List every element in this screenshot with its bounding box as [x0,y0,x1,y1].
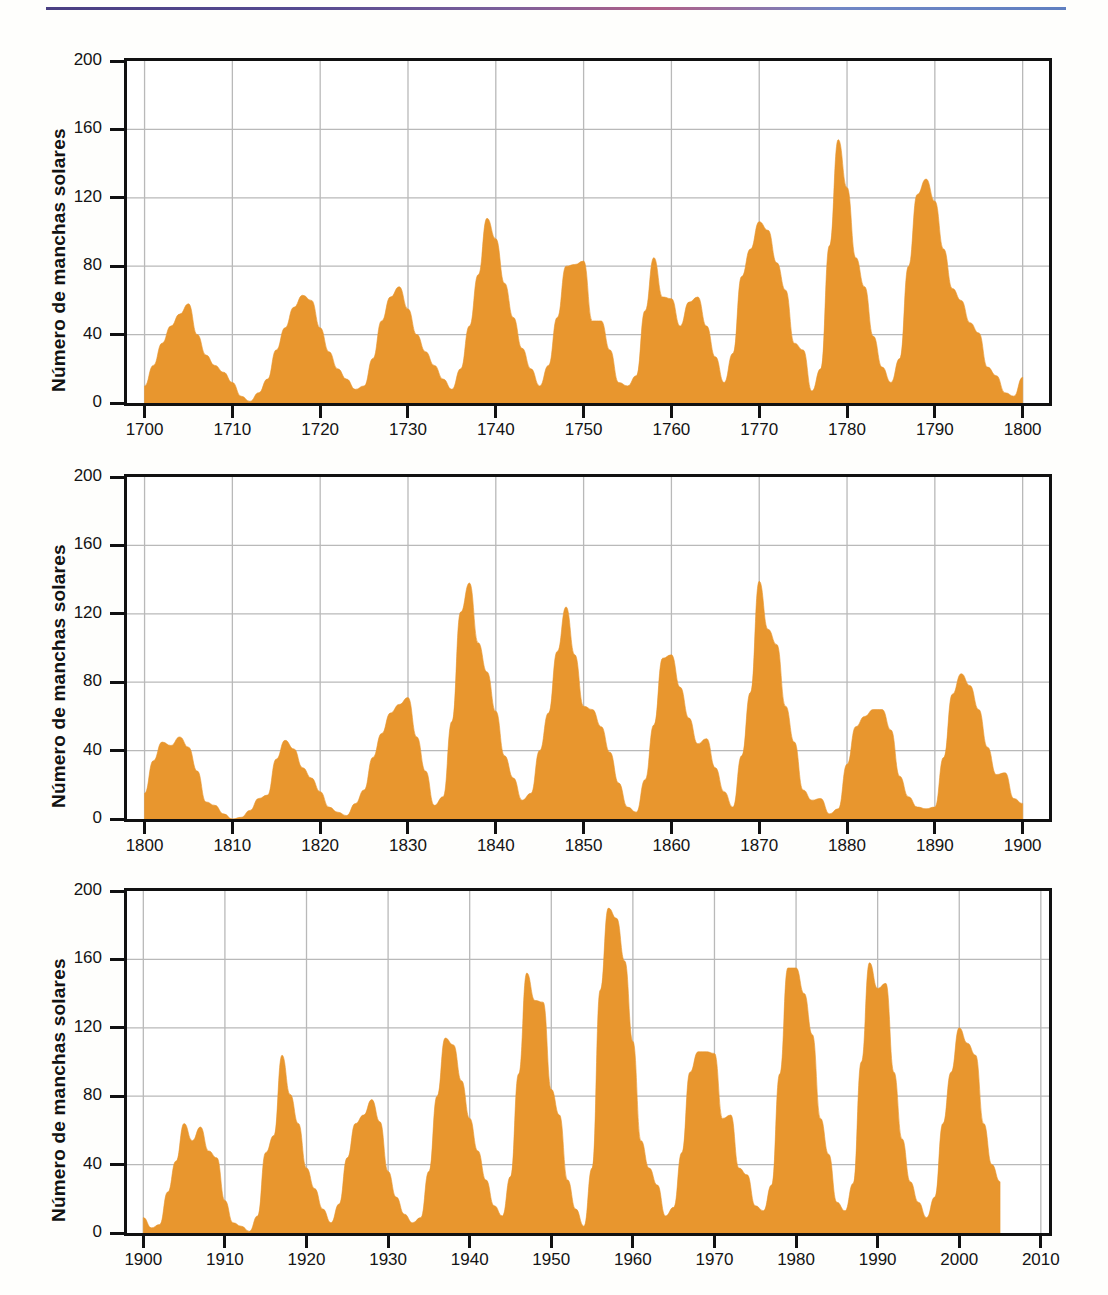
x-tick-label: 1700 [115,420,175,440]
x-tick-mark [143,822,146,834]
x-tick-label: 1860 [641,836,701,856]
y-tick-mark [110,890,124,893]
x-tick-label: 1730 [378,420,438,440]
y-tick-label: 120 [40,187,102,207]
y-tick-mark [110,749,124,752]
y-tick-mark [110,1163,124,1166]
x-tick-label: 1780 [817,420,877,440]
y-tick-label: 0 [40,392,102,412]
y-tick-label: 200 [40,50,102,70]
x-tick-mark [143,406,146,418]
y-tick-mark [110,612,124,615]
x-tick-mark [713,1236,716,1248]
x-tick-mark [876,1236,879,1248]
y-tick-mark [110,1095,124,1098]
x-tick-label: 1850 [554,836,614,856]
y-tick-label: 80 [40,255,102,275]
x-tick-label: 1820 [290,836,350,856]
x-tick-label: 1740 [466,420,526,440]
x-tick-label: 1870 [729,836,789,856]
x-tick-mark [231,406,234,418]
y-tick-mark [110,1026,124,1029]
x-tick-label: 1720 [290,420,350,440]
x-tick-label: 1890 [905,836,965,856]
x-tick-label: 1760 [641,420,701,440]
y-tick-mark [110,958,124,961]
sunspot-area-series [143,908,1000,1233]
x-tick-mark [494,406,497,418]
x-tick-label: 1960 [603,1250,663,1270]
x-tick-mark [319,822,322,834]
x-tick-label: 1980 [766,1250,826,1270]
y-tick-label: 160 [40,948,102,968]
figure-page: Número de manchas solares 04080120160200… [0,0,1108,1295]
y-tick-label: 40 [40,1154,102,1174]
x-tick-label: 2000 [929,1250,989,1270]
x-tick-mark [305,1236,308,1248]
x-tick-mark [406,822,409,834]
x-tick-mark [319,406,322,418]
y-tick-label: 40 [40,324,102,344]
x-tick-label: 1950 [521,1250,581,1270]
x-tick-label: 1900 [113,1250,173,1270]
y-tick-mark [110,476,124,479]
x-tick-mark [1021,822,1024,834]
x-tick-mark [582,406,585,418]
x-tick-mark [550,1236,553,1248]
x-tick-mark [387,1236,390,1248]
y-tick-mark [110,265,124,268]
x-tick-mark [933,406,936,418]
x-tick-mark [758,822,761,834]
y-tick-label: 0 [40,1222,102,1242]
x-tick-label: 1910 [195,1250,255,1270]
y-tick-mark [110,818,124,821]
x-tick-label: 1840 [466,836,526,856]
x-tick-mark [758,406,761,418]
y-tick-label: 160 [40,534,102,554]
panel-1-area-chart [127,61,1049,403]
x-tick-mark [958,1236,961,1248]
x-tick-label: 1940 [440,1250,500,1270]
panel-3-area-chart [127,891,1049,1233]
x-tick-label: 1930 [358,1250,418,1270]
x-tick-label: 2010 [1011,1250,1071,1270]
x-tick-mark [406,406,409,418]
x-tick-mark [1039,1236,1042,1248]
x-tick-label: 1800 [115,836,175,856]
x-tick-mark [846,822,849,834]
x-tick-mark [582,822,585,834]
y-tick-label: 0 [40,808,102,828]
x-tick-mark [223,1236,226,1248]
x-tick-mark [670,822,673,834]
y-tick-label: 40 [40,740,102,760]
x-tick-label: 1770 [729,420,789,440]
x-tick-label: 1990 [848,1250,908,1270]
x-tick-mark [231,822,234,834]
y-tick-mark [110,544,124,547]
x-tick-mark [1021,406,1024,418]
y-tick-mark [110,681,124,684]
x-tick-mark [631,1236,634,1248]
y-tick-mark [110,333,124,336]
panel-2-area-chart [127,477,1049,819]
x-tick-label: 1900 [993,836,1053,856]
x-tick-mark [846,406,849,418]
panel-2-frame [124,474,1052,822]
y-tick-label: 160 [40,118,102,138]
x-tick-mark [795,1236,798,1248]
panel-1-frame [124,58,1052,406]
y-tick-mark [110,1232,124,1235]
panel-3-frame [124,888,1052,1236]
y-tick-label: 200 [40,880,102,900]
y-tick-label: 200 [40,466,102,486]
x-tick-label: 1790 [905,420,965,440]
y-tick-label: 120 [40,603,102,623]
x-tick-mark [670,406,673,418]
x-tick-mark [494,822,497,834]
y-tick-label: 80 [40,671,102,691]
x-tick-label: 1830 [378,836,438,856]
y-tick-mark [110,60,124,63]
x-tick-mark [142,1236,145,1248]
y-tick-mark [110,128,124,131]
x-tick-label: 1920 [277,1250,337,1270]
